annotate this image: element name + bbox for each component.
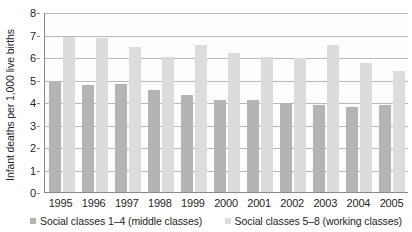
bar-group-2005 (375, 13, 408, 192)
y-tick-mark-3 (37, 126, 40, 127)
bar-2005-series-2 (393, 71, 405, 193)
bar-2005-series-1 (379, 105, 391, 192)
bar-2000-series-2 (228, 53, 240, 193)
bars-layer (45, 13, 408, 192)
y-tick-label-3: 3 (30, 120, 36, 131)
x-axis-tick-labels: 1995199619971998199920002001200220032004… (44, 194, 408, 212)
bar-group-1996 (78, 13, 111, 192)
y-tick-label-4: 4 (30, 98, 36, 109)
y-tick-mark-4 (37, 103, 40, 104)
bar-2002-series-2 (294, 58, 306, 192)
y-axis-tick-labels: 012345678 (14, 0, 40, 206)
bar-1997-series-1 (115, 84, 127, 192)
bar-1999-series-2 (195, 45, 207, 192)
x-tick-label-1997: 1997 (110, 194, 143, 212)
infant-mortality-bar-chart: Infant deaths per 1,000 live births 0123… (0, 0, 412, 232)
bar-group-2004 (342, 13, 375, 192)
bar-1995-series-1 (49, 82, 61, 192)
bar-group-2001 (243, 13, 276, 192)
chart-legend: Social classes 1–4 (middle classes) Soci… (30, 212, 402, 230)
bar-group-1997 (111, 13, 144, 192)
bar-group-2003 (309, 13, 342, 192)
x-tick-label-1998: 1998 (143, 194, 176, 212)
y-tick-mark-2 (37, 148, 40, 149)
y-tick-mark-7 (37, 36, 40, 37)
x-tick-label-1995: 1995 (44, 194, 77, 212)
legend-label-middle-classes: Social classes 1–4 (middle classes) (40, 215, 202, 227)
bar-2001-series-1 (247, 100, 259, 192)
bar-1996-series-1 (82, 85, 94, 192)
bar-1998-series-1 (148, 90, 160, 192)
bar-group-1995 (45, 13, 78, 192)
legend-item-social-classes-5-8: Social classes 5–8 (working classes) (225, 215, 402, 227)
bar-group-1998 (144, 13, 177, 192)
y-tick-mark-1 (37, 171, 40, 172)
legend-swatch-working-classes (225, 218, 231, 224)
x-tick-label-1999: 1999 (176, 194, 209, 212)
bar-2004-series-2 (360, 63, 372, 192)
y-tick-label-1: 1 (30, 165, 36, 176)
bar-group-1999 (177, 13, 210, 192)
bar-1999-series-1 (181, 95, 193, 192)
x-tick-label-2000: 2000 (209, 194, 242, 212)
y-tick-label-2: 2 (30, 143, 36, 154)
y-tick-mark-5 (37, 81, 40, 82)
bar-1996-series-2 (96, 38, 108, 192)
bar-2004-series-1 (346, 107, 358, 193)
y-tick-label-8: 8 (30, 8, 36, 19)
legend-item-social-classes-1-4: Social classes 1–4 (middle classes) (30, 215, 202, 227)
y-tick-label-0: 0 (30, 188, 36, 199)
x-tick-label-1996: 1996 (77, 194, 110, 212)
bar-group-2002 (276, 13, 309, 192)
x-tick-label-2003: 2003 (309, 194, 342, 212)
x-tick-label-2004: 2004 (342, 194, 375, 212)
y-tick-label-7: 7 (30, 30, 36, 41)
bar-1998-series-2 (162, 57, 174, 192)
y-tick-mark-0 (37, 193, 40, 194)
bar-2003-series-1 (313, 105, 325, 192)
bar-2002-series-1 (280, 103, 292, 192)
bar-2003-series-2 (327, 45, 339, 192)
bar-2001-series-2 (261, 57, 273, 192)
y-tick-label-5: 5 (30, 75, 36, 86)
plot-area (44, 13, 408, 193)
bar-2000-series-1 (214, 100, 226, 192)
x-tick-label-2002: 2002 (276, 194, 309, 212)
bar-group-2000 (210, 13, 243, 192)
x-tick-label-2001: 2001 (243, 194, 276, 212)
y-tick-label-6: 6 (30, 53, 36, 64)
x-tick-label-2005: 2005 (375, 194, 408, 212)
legend-swatch-middle-classes (30, 218, 36, 224)
bar-1997-series-2 (129, 47, 141, 192)
legend-label-working-classes: Social classes 5–8 (working classes) (235, 215, 402, 227)
bar-1995-series-2 (63, 37, 75, 192)
y-tick-mark-6 (37, 58, 40, 59)
y-tick-mark-8 (37, 13, 40, 14)
